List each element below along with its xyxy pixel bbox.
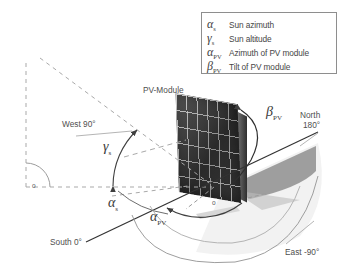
corner-angle-label: o [32,182,36,189]
module-azimuth-arc [167,203,242,217]
origin-label: o [212,199,216,206]
corner-angle-arc [26,163,50,187]
legend-sub-3: PV [213,67,221,74]
east-label-leader [286,221,314,244]
legend-text-module-tilt: Tilt of PV module [229,60,290,74]
legend-row-sun-altitude: γs Sun altitude [207,31,333,45]
east-label: East -90° [285,247,319,257]
sun-azimuth-sub: s [115,205,118,213]
legend-text-sun-altitude: Sun altitude [229,32,272,46]
module-azimuth-sub: PV [157,219,166,227]
south-north-axis-line [86,132,318,242]
south-label: South 0° [50,237,82,247]
diagram-canvas: PV-Module West 90° North 180° South 0° E… [0,0,350,273]
legend-row-module-azimuth: αPV Azimuth of PV module [207,45,333,59]
module-azimuth-tick-dashed [248,193,268,198]
sun-altitude-arc [113,130,137,186]
north-label-line2: 180° [303,120,320,130]
legend-row-sun-azimuth: αs Sun azimuth [207,17,333,31]
sun-altitude-symbol: γs [103,139,111,157]
legend-row-module-tilt: βPV Tilt of PV module [207,59,333,73]
module-tilt-glyph: β [266,104,273,119]
horizon-compass-arc-inner [150,186,300,243]
module-tilt-sub: PV [273,114,282,122]
module-normal-dashed [186,187,214,209]
pv-module-label: PV-Module [143,85,184,95]
sun-azimuth-symbol: αs [108,195,118,213]
north-label-line1: North [300,110,320,120]
west-label-leader [76,131,132,136]
module-tilt-arc [228,110,258,187]
module-tilt-symbol: βPV [266,104,282,122]
legend-text-sun-azimuth: Sun azimuth [229,18,274,32]
module-azimuth-symbol: αPV [150,209,166,227]
legend-text-module-azimuth: Azimuth of PV module [229,46,309,60]
legend-symbol-module-tilt: βPV [207,59,229,78]
sun-altitude-sub: s [109,149,112,157]
west-label: West 90° [62,119,96,129]
legend-box: αs Sun azimuth γs Sun altitude αPV Azimu… [201,12,337,74]
sun-projection-dashed [124,140,186,157]
